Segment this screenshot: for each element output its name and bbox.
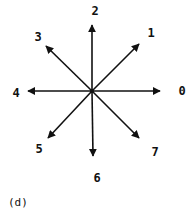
- arrow-direction-7: [92, 91, 139, 138]
- direction-label-5: 5: [35, 142, 42, 156]
- direction-label-4: 4: [12, 86, 19, 100]
- direction-label-3: 3: [34, 30, 41, 44]
- direction-label-0: 0: [178, 84, 185, 98]
- arrow-direction-1: [92, 44, 139, 91]
- direction-label-7: 7: [151, 145, 158, 159]
- arrow-direction-6: [92, 91, 93, 156]
- figure-caption: (d): [8, 196, 28, 209]
- arrow-direction-5: [48, 91, 92, 138]
- arrow-direction-3: [46, 46, 92, 91]
- arrows-group: [28, 25, 160, 156]
- labels-group: 01234567: [12, 4, 185, 185]
- direction-label-6: 6: [93, 171, 100, 185]
- direction-label-1: 1: [147, 26, 154, 40]
- direction-label-2: 2: [91, 4, 98, 18]
- center-point: [90, 89, 94, 93]
- direction-diagram: 01234567 (d): [0, 0, 194, 212]
